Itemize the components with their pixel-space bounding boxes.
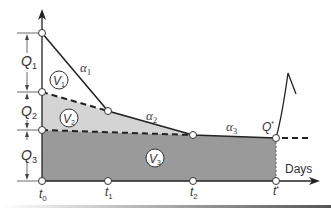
label-alpha1: α1 xyxy=(80,60,91,77)
volume-badge-v1: V1 xyxy=(50,71,68,89)
recharge-spike xyxy=(276,73,296,138)
marker-q-star xyxy=(273,135,280,142)
volume-badge-v2: V2 xyxy=(60,109,78,127)
label-alpha3: α3 xyxy=(226,119,238,136)
marker-q3-top xyxy=(39,127,46,134)
bottom-rule xyxy=(0,205,331,208)
label-q3: Q3 xyxy=(21,147,37,165)
label-q2: Q2 xyxy=(21,103,37,121)
marker-q2-top xyxy=(39,89,46,96)
x-axis-label-days: Days xyxy=(285,162,312,176)
storage-diagram: Q1 Q2 Q3 α1 α2 α3 V1 V2 V3 Q* Days t0 t1… xyxy=(0,0,331,210)
volume-badge-v3: V3 xyxy=(146,149,164,167)
marker-q1-top xyxy=(39,30,46,37)
label-t0: t0 xyxy=(39,187,47,203)
label-t2: t2 xyxy=(190,185,198,201)
marker-t2 xyxy=(190,178,197,185)
label-q-star: Q* xyxy=(262,120,274,134)
marker-t1-curve xyxy=(105,108,112,115)
marker-t1 xyxy=(105,178,112,185)
label-q1: Q1 xyxy=(21,53,37,71)
marker-t2-curve xyxy=(190,132,197,139)
label-t1: t1 xyxy=(105,185,113,201)
label-alpha2: α2 xyxy=(146,108,157,125)
label-t-star: t* xyxy=(273,184,279,198)
marker-t0 xyxy=(39,178,46,185)
